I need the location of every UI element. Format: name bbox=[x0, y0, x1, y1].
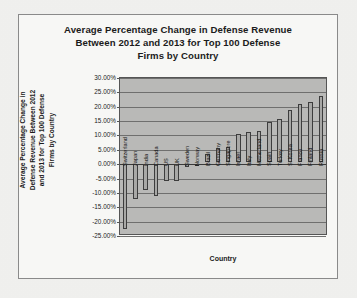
y-tick-label: 0.00% bbox=[98, 160, 116, 167]
bar-series: SwitzerlandJapanIndiaCanadaUSUKSwedenNor… bbox=[120, 78, 326, 234]
bar-slot: UK bbox=[171, 78, 181, 234]
bar-slot: Finland bbox=[305, 78, 315, 234]
category-label: US bbox=[163, 158, 169, 166]
category-label: Brazil bbox=[205, 152, 211, 166]
bar bbox=[133, 164, 138, 198]
y-tick-label: 20.00% bbox=[94, 102, 116, 109]
chart-frame: Average Percentage Change in Defense Rev… bbox=[18, 14, 338, 279]
y-axis-title-line-4: Firms by Country bbox=[47, 60, 57, 220]
y-axis-tick-labels: 30.00%25.00%20.00%15.00%10.00%5.00%0.00%… bbox=[75, 77, 119, 235]
category-label: Canada bbox=[153, 147, 159, 167]
bar-slot: Russia bbox=[316, 78, 326, 234]
category-label: Sweden bbox=[184, 146, 190, 166]
chart-title-line-1: Average Percentage Change in Defense Rev… bbox=[41, 23, 315, 36]
category-label: Turkey bbox=[277, 149, 283, 166]
x-axis-title: Country bbox=[119, 255, 327, 262]
bar bbox=[154, 164, 159, 196]
bar-slot: Netherland bbox=[254, 78, 264, 234]
bar-slot: S. Korea bbox=[285, 78, 295, 234]
chart-title-line-2: Between 2012 and 2013 for Top 100 Defens… bbox=[41, 36, 315, 49]
category-label: Norway bbox=[194, 147, 200, 166]
y-axis-title-line-2: Defense Revenue Between 2012 bbox=[28, 60, 38, 220]
bar-slot: India bbox=[141, 78, 151, 234]
y-tick-label: -25.00% bbox=[92, 232, 116, 239]
category-label: Italy bbox=[246, 156, 252, 166]
bar-slot: France bbox=[295, 78, 305, 234]
plot-area: SwitzerlandJapanIndiaCanadaUSUKSwedenNor… bbox=[119, 77, 327, 235]
y-tick-label: 30.00% bbox=[94, 74, 116, 81]
bar-slot: Switzerland bbox=[120, 78, 130, 234]
category-label: Germany bbox=[215, 143, 221, 166]
chart-plot-area-container: Average Percentage Change in Defense Rev… bbox=[19, 77, 339, 257]
category-label: Netherland bbox=[256, 139, 262, 166]
y-axis-title: Average Percentage Change in Defense Rev… bbox=[18, 60, 56, 220]
y-tick-label: 15.00% bbox=[94, 117, 116, 124]
bar-slot: Turkey bbox=[274, 78, 284, 234]
bar-slot: Spain bbox=[264, 78, 274, 234]
y-tick-label: -10.00% bbox=[92, 188, 116, 195]
bar-slot: US bbox=[161, 78, 171, 234]
bar-slot: Norway bbox=[192, 78, 202, 234]
category-label: India bbox=[143, 154, 149, 166]
category-label: Israel bbox=[235, 152, 241, 166]
y-axis-title-line-3: and 2013 for Top 100 Defense bbox=[37, 60, 47, 220]
category-label: Singapore bbox=[225, 141, 231, 167]
gridline bbox=[120, 236, 326, 237]
category-label: UK bbox=[174, 158, 180, 166]
bar-slot: Singapore bbox=[223, 78, 233, 234]
bar-slot: Canada bbox=[151, 78, 161, 234]
category-label: France bbox=[297, 149, 303, 166]
bar-slot: Israel bbox=[233, 78, 243, 234]
y-tick-label: 5.00% bbox=[98, 145, 116, 152]
y-axis-title-line-1: Average Percentage Change in bbox=[18, 60, 28, 220]
y-tick-label: 10.00% bbox=[94, 131, 116, 138]
category-label: Spain bbox=[266, 152, 272, 166]
y-axis-tick bbox=[117, 236, 120, 237]
chart-title-line-3: Firms by Country bbox=[41, 49, 315, 62]
chart-title: Average Percentage Change in Defense Rev… bbox=[41, 23, 315, 62]
bar-slot: Japan bbox=[130, 78, 140, 234]
bar bbox=[123, 164, 128, 229]
y-tick-label: 25.00% bbox=[94, 88, 116, 95]
y-tick-label: -20.00% bbox=[92, 217, 116, 224]
bar-slot: Brazil bbox=[202, 78, 212, 234]
bar bbox=[164, 164, 169, 181]
category-label: Switzerland bbox=[122, 137, 128, 166]
y-tick-label: -5.00% bbox=[96, 174, 116, 181]
category-label: S. Korea bbox=[287, 144, 293, 166]
bar-slot: Germany bbox=[213, 78, 223, 234]
bar bbox=[143, 164, 148, 190]
category-label: Russia bbox=[318, 149, 324, 166]
bar bbox=[174, 164, 179, 181]
bar-slot: Italy bbox=[244, 78, 254, 234]
y-tick-label: -15.00% bbox=[92, 203, 116, 210]
category-label: Finland bbox=[307, 148, 313, 166]
category-label: Japan bbox=[132, 151, 138, 166]
bar-slot: Sweden bbox=[182, 78, 192, 234]
